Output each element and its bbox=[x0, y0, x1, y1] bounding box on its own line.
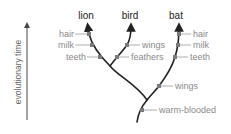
lion-branch bbox=[88, 27, 147, 100]
trait-labels: hair milk teeth wings feathers hair milk… bbox=[58, 29, 216, 115]
node-lion-hair bbox=[87, 32, 91, 36]
trait-bird-wings: wings bbox=[141, 40, 166, 50]
node-warm-blooded bbox=[140, 108, 144, 112]
node-bird-wings bbox=[125, 43, 129, 47]
node-bat-wings bbox=[157, 84, 161, 88]
trait-lion-milk: milk bbox=[58, 40, 74, 50]
node-lion-milk bbox=[90, 43, 94, 47]
node-bird-feathers bbox=[115, 55, 119, 59]
node-bat-teeth bbox=[173, 55, 177, 59]
trait-lion-hair: hair bbox=[59, 29, 74, 39]
taxon-bat: bat bbox=[169, 10, 183, 21]
taxon-lion: lion bbox=[78, 10, 94, 21]
taxon-labels: lion bird bat bbox=[78, 10, 183, 21]
node-bat-milk bbox=[176, 43, 180, 47]
node-lion-teeth bbox=[98, 55, 102, 59]
taxon-bird: bird bbox=[122, 10, 139, 21]
trait-bird-feathers: feathers bbox=[131, 52, 164, 62]
cladogram: evolutionary time lion bird bbox=[0, 0, 231, 134]
node-bat-hair bbox=[177, 32, 181, 36]
trait-bat-teeth: teeth bbox=[190, 52, 210, 62]
trait-bat-hair: hair bbox=[193, 29, 208, 39]
trait-warm-blooded: warm-blooded bbox=[158, 105, 216, 115]
trait-bat-milk: milk bbox=[193, 40, 209, 50]
trait-bat-wings: wings bbox=[174, 81, 199, 91]
trait-lion-teeth: teeth bbox=[66, 52, 86, 62]
time-axis: evolutionary time bbox=[13, 25, 27, 120]
time-axis-label: evolutionary time bbox=[13, 40, 23, 105]
trait-nodes bbox=[87, 32, 181, 112]
